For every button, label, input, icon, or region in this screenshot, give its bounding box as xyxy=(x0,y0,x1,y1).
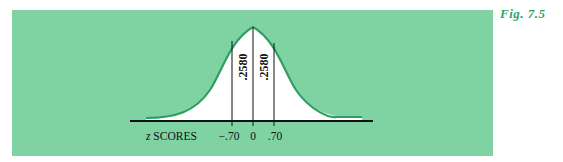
curve-area-fill xyxy=(146,27,362,121)
tick-label-pos-070: .70 xyxy=(268,130,283,142)
axis-title-scores: SCORES xyxy=(150,130,196,142)
tick-label-zero: 0 xyxy=(250,130,256,142)
area-label-right: .2580 xyxy=(257,54,271,81)
area-label-left: .2580 xyxy=(236,54,250,81)
tick-label-neg-070: −.70 xyxy=(219,130,240,142)
axis-title: z SCORES xyxy=(145,130,197,142)
normal-curve-chart: .2580 .2580 z SCORES −.70 0 .70 xyxy=(0,0,563,162)
